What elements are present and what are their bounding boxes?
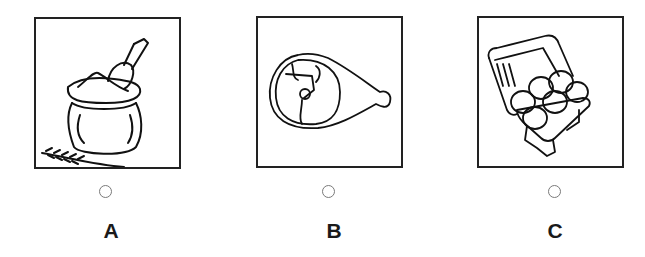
- option-c-image[interactable]: [477, 16, 624, 168]
- flour-sack-icon: [36, 19, 179, 167]
- option-a-image[interactable]: [34, 17, 181, 169]
- option-c[interactable]: C: [477, 0, 623, 257]
- ham-icon: [258, 18, 401, 166]
- option-b[interactable]: B: [256, 0, 402, 257]
- option-b-radio[interactable]: [322, 185, 335, 198]
- option-a-label: A: [91, 219, 131, 243]
- option-c-label: C: [535, 219, 575, 243]
- option-a[interactable]: A: [34, 0, 180, 257]
- option-b-label: B: [314, 219, 354, 243]
- egg-carton-icon: [479, 18, 622, 166]
- option-b-image[interactable]: [256, 16, 403, 168]
- option-c-radio[interactable]: [548, 185, 561, 198]
- option-a-radio[interactable]: [99, 185, 112, 198]
